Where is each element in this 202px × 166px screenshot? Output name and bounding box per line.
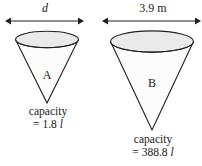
figure-container: d 3.9 m A B capacity = 1.8 l capacity = … (0, 0, 202, 166)
cone-a-letter: A (35, 69, 59, 82)
cone-b-capacity-word: capacity (134, 133, 172, 145)
cone-a-capacity-label: capacity = 1.8 l (7, 105, 89, 130)
cone-a-group (11, 21, 79, 103)
cone-b-capacity-label: capacity = 388.8 l (110, 133, 196, 158)
cone-a-capacity-unit: l (60, 118, 63, 130)
cone-a-capacity-value: = 1.8 (33, 118, 60, 130)
cone-b-letter: B (140, 77, 164, 90)
cone-a-dimension-label: d (28, 2, 62, 15)
cone-b-capacity-unit: l (170, 146, 173, 158)
cone-a-capacity-word: capacity (29, 105, 67, 117)
cone-a-capacity-value-line: = 1.8 l (7, 118, 89, 130)
cone-b-capacity-value-line: = 388.8 l (110, 146, 196, 158)
cone-b-dimension-label: 3.9 m (125, 2, 181, 15)
cone-b-capacity-value: = 388.8 (132, 146, 170, 158)
